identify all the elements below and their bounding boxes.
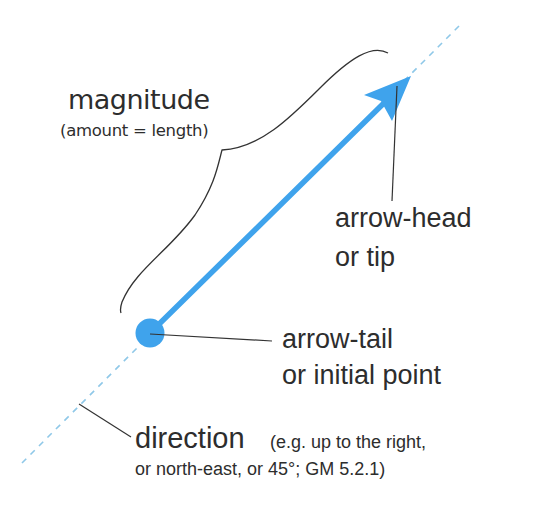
arrow-head-sublabel: or tip (335, 244, 395, 271)
tail-point-icon (136, 319, 165, 348)
magnitude-label: magnitude (68, 86, 210, 113)
arrow-head-label: arrow-head (335, 205, 472, 232)
arrow-tail-label: arrow-tail (282, 326, 393, 353)
arrow-tail-sublabel: or initial point (282, 362, 441, 389)
vector-diagram: magnitude (amount = length) arrow-head o… (0, 0, 537, 511)
diagram-graphics (0, 0, 537, 511)
direction-label: direction (135, 424, 245, 453)
direction-note-line2: or north-east, or 45°; GM 5.2.1) (135, 460, 385, 478)
direction-note-line1: (e.g. up to the right, (270, 433, 426, 451)
magnitude-sublabel: (amount = length) (60, 123, 208, 140)
leader-direction (79, 404, 131, 437)
leader-arrow-tail (150, 334, 272, 341)
